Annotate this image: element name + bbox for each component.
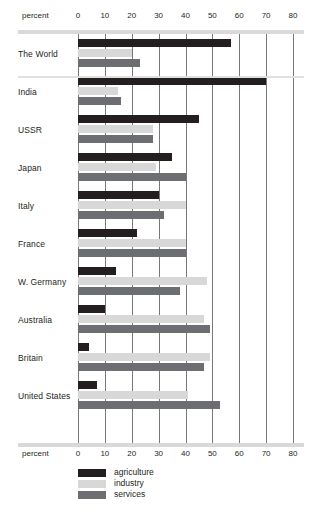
bar-group (0, 74, 310, 112)
bar-services (78, 401, 220, 409)
bar-services (78, 249, 186, 257)
x-axis-tick-label: 70 (262, 449, 271, 458)
x-axis-tick-label: 30 (154, 449, 163, 458)
legend-swatch-services (78, 491, 106, 499)
bar-industry (78, 163, 156, 171)
bar-agriculture (78, 343, 89, 351)
legend-swatch-agriculture (78, 469, 106, 477)
bar-industry (78, 125, 153, 133)
legend-label: services (114, 489, 145, 499)
bar-row: USSR (0, 112, 310, 150)
bar-group (0, 302, 310, 340)
bar-row: The World (0, 36, 310, 74)
bottom-axis: percent 01020304050607080 (0, 446, 310, 468)
bar-agriculture (78, 115, 199, 123)
x-axis-tick-label: 20 (127, 11, 136, 20)
bar-services (78, 97, 121, 105)
bar-industry (78, 49, 132, 57)
bar-group (0, 36, 310, 74)
x-axis-tick-label: 10 (100, 449, 109, 458)
x-axis-tick-label: 70 (262, 11, 271, 20)
bar-group (0, 340, 310, 378)
bar-group (0, 150, 310, 188)
bar-agriculture (78, 39, 231, 47)
bar-group (0, 226, 310, 264)
x-axis-tick-label: 50 (208, 11, 217, 20)
bar-row: Japan (0, 150, 310, 188)
plot-area: The WorldIndiaUSSRJapanItalyFranceW. Ger… (0, 34, 310, 443)
x-axis-tick-label: 40 (181, 11, 190, 20)
world-separator (18, 76, 304, 78)
bar-group (0, 378, 310, 416)
x-axis-tick-label: 40 (181, 449, 190, 458)
bar-row: W. Germany (0, 264, 310, 302)
x-axis-tick-label: 20 (127, 449, 136, 458)
bar-row: Britain (0, 340, 310, 378)
top-axis: percent 01020304050607080 (0, 8, 310, 30)
bar-agriculture (78, 229, 137, 237)
axis-title-bottom: percent (22, 449, 49, 458)
bar-services (78, 325, 210, 333)
x-axis-tick-label: 80 (289, 11, 298, 20)
x-axis-tick-label: 30 (154, 11, 163, 20)
bar-services (78, 287, 180, 295)
bar-industry (78, 353, 210, 361)
bar-agriculture (78, 191, 159, 199)
x-axis-tick-label: 50 (208, 449, 217, 458)
bar-group (0, 188, 310, 226)
bar-row: Italy (0, 188, 310, 226)
legend-item: agriculture (78, 468, 258, 479)
bar-industry (78, 239, 186, 247)
legend-item: services (78, 490, 258, 501)
bar-industry (78, 315, 204, 323)
bar-row: India (0, 74, 310, 112)
bar-services (78, 59, 140, 67)
bar-services (78, 363, 204, 371)
bar-industry (78, 277, 207, 285)
bar-industry (78, 391, 188, 399)
bar-row: Australia (0, 302, 310, 340)
bar-chart: percent 01020304050607080 The WorldIndia… (0, 0, 310, 514)
x-axis-tick-label: 80 (289, 449, 298, 458)
bar-group (0, 112, 310, 150)
bar-agriculture (78, 381, 97, 389)
bar-agriculture (78, 267, 116, 275)
x-axis-tick-label: 60 (235, 11, 244, 20)
bar-services (78, 211, 164, 219)
bar-agriculture (78, 153, 172, 161)
legend-label: agriculture (114, 467, 154, 477)
bar-services (78, 135, 153, 143)
bar-rows: The WorldIndiaUSSRJapanItalyFranceW. Ger… (0, 34, 310, 443)
bar-row: France (0, 226, 310, 264)
axis-title-top: percent (22, 11, 49, 20)
legend-label: industry (114, 478, 144, 488)
bar-services (78, 173, 186, 181)
bar-agriculture (78, 305, 105, 313)
legend: agricultureindustryservices (78, 468, 258, 501)
bar-group (0, 264, 310, 302)
bar-industry (78, 201, 186, 209)
bar-industry (78, 87, 118, 95)
x-axis-tick-label: 0 (76, 449, 80, 458)
bar-agriculture (78, 77, 266, 85)
legend-swatch-industry (78, 480, 106, 488)
x-axis-tick-label: 60 (235, 449, 244, 458)
bar-row: United States (0, 378, 310, 416)
legend-item: industry (78, 479, 258, 490)
x-axis-tick-label: 10 (100, 11, 109, 20)
x-axis-tick-label: 0 (76, 11, 80, 20)
